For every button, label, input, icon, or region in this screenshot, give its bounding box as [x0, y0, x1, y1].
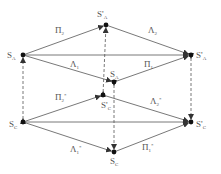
edge-SC_left-SC_bottom	[23, 122, 111, 151]
node-label-SA_left: SA	[7, 50, 16, 61]
solid-edges	[23, 25, 188, 152]
node-SpC_mid	[101, 93, 106, 98]
edge-label: Π2*	[55, 92, 67, 103]
edge-label: Π1*	[142, 142, 154, 153]
node-label-SpA_top: S'A	[97, 9, 108, 20]
node-SpA_right	[189, 53, 194, 58]
edge-label: Λ1	[70, 59, 80, 70]
edge-SA_left-SA_mid	[23, 55, 111, 81]
node-SC_bottom	[112, 150, 117, 155]
edge-label: Π1	[144, 59, 154, 70]
node-SA_mid	[112, 80, 117, 85]
node-SpC_right	[189, 120, 194, 125]
edge-labels: Π2Λ2Λ1Π1Π2*Λ2*Λ1*Π1*	[55, 25, 162, 155]
node-label-SC_left: SC	[9, 119, 18, 130]
node-label-SA_mid: SA	[110, 69, 119, 80]
node-SA_left	[21, 53, 26, 58]
commutative-diagram: S'ASAS'ASAS'CSCS'CSC Π2Λ2Λ1Π1Π2*Λ2*Λ1*Π1…	[0, 0, 221, 174]
diagram-svg: S'ASAS'ASAS'CSCS'CSC Π2Λ2Λ1Π1Π2*Λ2*Λ1*Π1…	[0, 0, 221, 174]
nodes: S'ASAS'ASAS'CSCS'CSC	[7, 9, 207, 167]
edge-SpC_mid-SpC_right	[103, 95, 188, 121]
edge-label: Λ1*	[70, 144, 82, 155]
node-SC_left	[21, 120, 26, 125]
edge-label: Λ2	[148, 25, 158, 36]
edge-label: Λ2*	[150, 96, 162, 107]
node-SpA_top	[104, 23, 109, 28]
dashed-SpC_mid-SpA_top	[103, 28, 106, 92]
node-label-SpA_right: S'A	[196, 50, 207, 61]
node-label-SpC_mid: S'C	[101, 100, 112, 111]
node-label-SC_bottom: SC	[110, 156, 119, 167]
edge-label: Π2	[55, 25, 65, 36]
node-label-SpC_right: S'C	[196, 119, 207, 130]
